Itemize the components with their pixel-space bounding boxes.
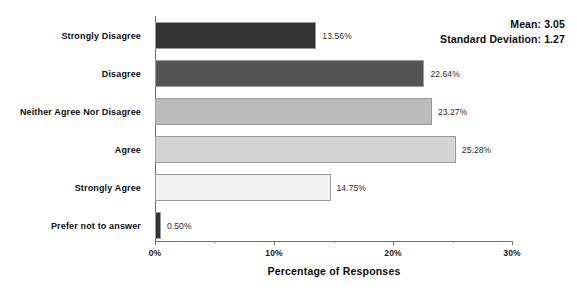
x-tick-mark (274, 241, 275, 245)
bar-row: 22.64% (155, 60, 512, 87)
x-tick-label: 10% (265, 248, 282, 258)
bar-agree[interactable] (155, 136, 456, 163)
x-tick-mark (155, 241, 156, 245)
bar-chart: Mean: 3.05 Standard Deviation: 1.27 13.5… (0, 0, 577, 299)
bar-disagree[interactable] (155, 60, 424, 87)
bar-value-label: 23.27% (438, 107, 467, 117)
bar-row: 23.27% (155, 98, 512, 125)
bar-row: 0.50% (155, 212, 512, 239)
x-tick-minor (453, 241, 454, 243)
x-tick-label: 20% (384, 248, 401, 258)
x-tick-mark (512, 241, 513, 245)
bar-row: 13.56% (155, 22, 512, 49)
x-axis-title: Percentage of Responses (155, 265, 513, 277)
category-label-strongly-disagree: Strongly Disagree (0, 31, 149, 41)
bar-value-label: 22.64% (430, 69, 459, 79)
bar-row: 25.28% (155, 136, 512, 163)
bar-prefer-not-to-answer[interactable] (155, 212, 161, 239)
bar-value-label: 14.75% (337, 183, 366, 193)
bar-strongly-agree[interactable] (155, 174, 331, 201)
x-tick-label: 0% (149, 248, 162, 258)
category-label-agree: Agree (0, 145, 149, 155)
category-label-neither-agree-nor-disagree: Neither Agree Nor Disagree (0, 107, 149, 117)
plot-area: 13.56%22.64%23.27%25.28%14.75%0.50% (155, 18, 512, 240)
x-tick-mark (393, 241, 394, 245)
x-tick-minor (334, 241, 335, 243)
bar-neither-agree-nor-disagree[interactable] (155, 98, 432, 125)
category-label-disagree: Disagree (0, 69, 149, 79)
category-label-strongly-agree: Strongly Agree (0, 183, 149, 193)
x-tick-minor (215, 241, 216, 243)
category-label-prefer-not-to-answer: Prefer not to answer (0, 221, 149, 231)
x-tick-label: 30% (503, 248, 520, 258)
bar-value-label: 0.50% (167, 221, 192, 231)
bar-value-label: 13.56% (322, 31, 351, 41)
bar-strongly-disagree[interactable] (155, 22, 316, 49)
bar-value-label: 25.28% (462, 145, 491, 155)
bar-row: 14.75% (155, 174, 512, 201)
